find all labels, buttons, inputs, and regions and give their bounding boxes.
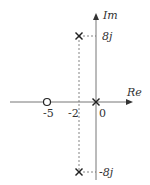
tick-label-upper-imag: 8j <box>102 30 113 43</box>
tick-label-zero: -5 <box>43 107 54 120</box>
tick-label-origin: 0 <box>99 107 106 120</box>
tick-label-lower-imag: -8j <box>99 166 114 179</box>
real-axis-label: Re <box>126 86 142 99</box>
imaginary-axis <box>93 13 99 180</box>
imaginary-axis-label: Im <box>102 9 118 22</box>
imaginary-axis-arrow-icon <box>93 13 99 20</box>
tick-label-pole-real: -2 <box>68 107 79 120</box>
real-axis <box>10 99 133 105</box>
pole-marker-upper-icon <box>76 33 83 40</box>
pole-zero-plot: Im Re -5 -2 0 8j -8j <box>0 0 150 185</box>
real-axis-arrow-icon <box>126 99 133 105</box>
zero-marker-icon <box>44 99 51 106</box>
